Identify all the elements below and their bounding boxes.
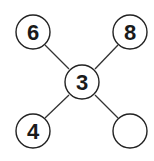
puzzle-diagram: 6 8 3 4	[0, 0, 154, 161]
node-top-left: 6	[16, 15, 50, 49]
node-bottom-right-empty	[113, 114, 147, 148]
node-top-right: 8	[113, 15, 147, 49]
line-bottom-right	[95, 95, 118, 118]
line-bottom-left	[45, 95, 69, 118]
node-label: 6	[27, 20, 39, 45]
line-top-right	[95, 45, 118, 69]
node-label: 8	[124, 20, 136, 45]
node-label: 4	[27, 119, 40, 144]
node-bottom-left: 4	[16, 114, 50, 148]
node-label: 3	[76, 70, 88, 95]
line-top-left	[45, 45, 69, 69]
node-center: 3	[65, 65, 99, 99]
